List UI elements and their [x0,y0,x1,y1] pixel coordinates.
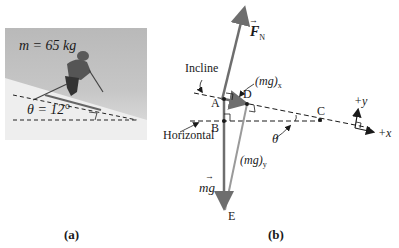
normal-force-label: FN [250,24,265,42]
mg-label: mg [199,180,215,196]
incline-line [194,93,370,128]
vector-arrow-glyph: → [249,15,258,25]
plus-y-label: +y [354,94,367,109]
point-a [222,97,226,101]
plus-x-label: +x [378,126,391,141]
theta-label: θ [272,131,278,147]
point-b-label: B [211,121,219,136]
point-e-label: E [228,209,235,224]
mg-vector-glyph: → [205,171,214,181]
point-d-label: D [243,87,252,102]
point-c-label: C [317,104,325,119]
axis-x-arrow [355,128,373,132]
caption-b: (b) [268,227,284,243]
point-a-label: A [211,96,220,111]
mg-x-label: (mg)x [255,74,282,90]
normal-force-arrow [222,10,244,100]
axis-y-arrow [355,110,358,128]
mg-x-component-arrow [224,99,244,103]
point-b [222,119,226,123]
free-body-diagram [0,0,399,248]
mg-y-label: (mg)y [240,153,267,169]
incline-label: Incline [185,61,218,76]
horizontal-label: Horizontal [163,128,214,143]
point-d [245,102,249,106]
